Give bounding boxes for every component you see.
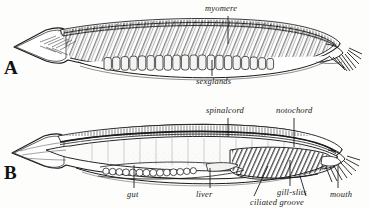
label-liver: liver bbox=[196, 190, 213, 199]
panel-letter-a: A bbox=[4, 58, 18, 77]
panel-a-oral-cirri bbox=[330, 48, 362, 71]
label-notochord: notochord bbox=[276, 106, 312, 115]
panel-letter-b: B bbox=[4, 163, 17, 182]
label-gut: gut bbox=[127, 190, 138, 199]
panel-b-mouth bbox=[321, 156, 341, 166]
label-gill-slits: gill-slits bbox=[277, 188, 307, 197]
figure-root: A B myomere sexglands spinalcord notocho… bbox=[0, 0, 369, 208]
panel-a-drawing bbox=[14, 16, 362, 80]
anatomy-illustration bbox=[0, 0, 369, 208]
panel-b-drawing bbox=[12, 122, 360, 186]
label-myomere: myomere bbox=[205, 4, 237, 13]
label-sexglands: sexglands bbox=[196, 77, 231, 86]
label-mouth: mouth bbox=[330, 190, 352, 199]
label-ciliated-groove: ciliated groove bbox=[250, 198, 304, 207]
label-spinalcord: spinalcord bbox=[206, 106, 244, 115]
